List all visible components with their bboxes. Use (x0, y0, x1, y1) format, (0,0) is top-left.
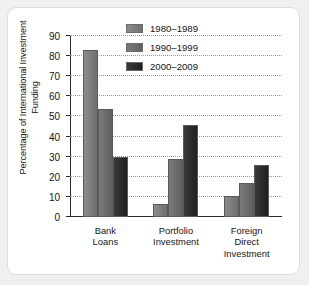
x-axis-category-label: PortfolioInvestment (153, 225, 199, 248)
y-tick-label: 0 (54, 212, 60, 223)
bar[interactable] (113, 157, 128, 217)
bar-group-bars (211, 36, 282, 217)
bar[interactable] (254, 165, 269, 217)
x-axis-category-label: BankLoans (93, 225, 119, 248)
y-tick-label: 90 (49, 31, 60, 42)
legend: 1980–19891990–19992000–2009 (126, 20, 198, 77)
bar-group: ForeignDirectInvestment (211, 36, 282, 217)
y-tick-label: 20 (49, 171, 60, 182)
y-tick-label: 60 (49, 91, 60, 102)
chart-card: Percentage of International Investment F… (7, 7, 300, 275)
bar[interactable] (153, 204, 168, 217)
y-tick-label: 30 (49, 151, 60, 162)
bar[interactable] (183, 125, 198, 218)
bar[interactable] (168, 159, 183, 217)
y-tick-label: 10 (49, 191, 60, 202)
legend-label: 1980–1989 (150, 23, 198, 34)
legend-item[interactable]: 1990–1999 (126, 39, 198, 55)
y-tick-label: 80 (49, 51, 60, 62)
y-tick-label: 50 (49, 111, 60, 122)
bar[interactable] (98, 109, 113, 217)
bar[interactable] (224, 196, 239, 217)
y-tick-label: 40 (49, 131, 60, 142)
y-tick-label: 70 (49, 71, 60, 82)
y-axis-title: Percentage of International Investment F… (18, 14, 41, 182)
legend-label: 2000–2009 (150, 61, 198, 72)
legend-swatch (126, 43, 143, 52)
legend-item[interactable]: 2000–2009 (126, 58, 198, 74)
bar[interactable] (83, 50, 98, 217)
bar-chart: Percentage of International Investment F… (8, 8, 301, 276)
legend-swatch (126, 24, 143, 33)
legend-label: 1990–1999 (150, 42, 198, 53)
x-axis-category-label: ForeignDirectInvestment (224, 225, 270, 259)
legend-swatch (126, 62, 143, 71)
bar[interactable] (239, 183, 254, 217)
legend-item[interactable]: 1980–1989 (126, 20, 198, 36)
